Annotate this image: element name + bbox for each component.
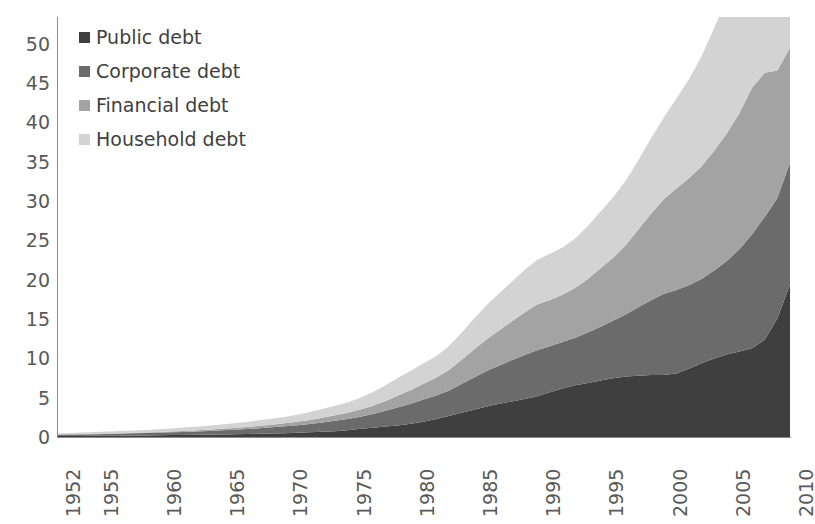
legend-item-label: Corporate debt: [96, 62, 240, 81]
legend-swatch-financial-debt: [79, 100, 90, 111]
x-tick-label-1965: 1965: [228, 469, 247, 517]
x-tick-label-1970: 1970: [291, 469, 310, 517]
x-tick-label-2005: 2005: [734, 469, 753, 517]
legend-item-label: Public debt: [96, 28, 202, 47]
x-tick-label-1980: 1980: [418, 469, 437, 517]
x-tick-label-1952: 1952: [64, 469, 83, 517]
legend-item-label: Financial debt: [96, 96, 229, 115]
legend-swatch-household-debt: [79, 134, 90, 145]
x-tick-label-1990: 1990: [544, 469, 563, 517]
legend-item-public-debt[interactable]: Public debt: [79, 20, 309, 54]
legend-item-corporate-debt[interactable]: Corporate debt: [79, 54, 309, 88]
legend-swatch-public-debt: [79, 32, 90, 43]
stacked-area-chart: 05101520253035404550 1952195519601965197…: [0, 0, 815, 524]
legend-item-household-debt[interactable]: Household debt: [79, 122, 309, 156]
legend-item-label: Household debt: [96, 130, 246, 149]
chart-legend: Public debtCorporate debtFinancial debtH…: [79, 20, 309, 156]
x-tick-label-1985: 1985: [481, 469, 500, 517]
x-tick-label-1975: 1975: [355, 469, 374, 517]
x-tick-label-1995: 1995: [607, 469, 626, 517]
x-tick-label-2000: 2000: [671, 469, 690, 517]
x-tick-label-1955: 1955: [102, 469, 121, 517]
legend-item-financial-debt[interactable]: Financial debt: [79, 88, 309, 122]
legend-swatch-corporate-debt: [79, 66, 90, 77]
x-tick-label-1960: 1960: [165, 469, 184, 517]
x-tick-label-2010: 2010: [797, 469, 815, 517]
